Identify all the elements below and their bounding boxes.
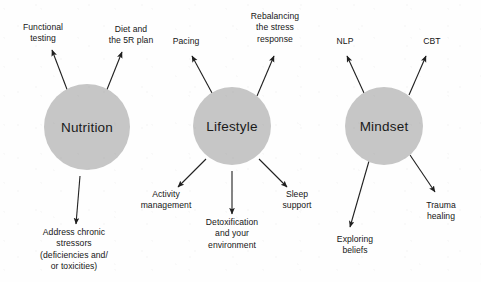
branch-label-line: (deficiencies and/ [40,250,108,261]
diagram-canvas: NutritionFunctionaltestingDiet andthe 5R… [0,0,481,282]
branch-label-line: beliefs [337,245,373,256]
node-circle-lifestyle[interactable] [193,87,271,165]
branch-label-trauma-healing: Traumahealing [426,200,456,223]
node-circle-mindset[interactable] [345,87,423,165]
branch-label-cbt: CBT [423,36,440,47]
branch-label-line: Rebalancing [251,11,299,22]
branch-label-line: Exploring [337,234,373,245]
branch-label-line: Functional [23,22,63,33]
branch-label-line: Pacing [173,36,200,47]
branch-label-line: support [282,200,311,211]
branch-label-pacing: Pacing [173,36,200,47]
branch-label-address-chronic-stressors: Address chronicstressors(deficiencies an… [40,227,108,272]
branch-label-exploring-beliefs: Exploringbeliefs [337,234,373,257]
branch-label-detoxification-environment: Detoxificationand yourenvironment [206,217,258,251]
branch-label-line: response [251,34,299,45]
branch-label-line: or toxicities) [40,261,108,272]
branch-label-diet-and-5r-plan: Diet andthe 5R plan [109,24,154,47]
branch-label-sleep-support: Sleepsupport [282,189,311,212]
branch-label-nlp: NLP [337,36,354,47]
circle-layer [44,84,423,170]
branch-label-line: management [141,200,192,211]
branch-label-functional-testing: Functionaltesting [23,22,63,45]
arrow-nlp [347,56,364,93]
branch-label-line: CBT [423,36,440,47]
arrow-sleep-support [259,159,287,187]
branch-label-line: healing [426,211,456,222]
arrow-diet-and-5r-plan [106,52,122,92]
branch-label-line: Activity [141,189,192,200]
branch-label-line: and your [206,228,258,239]
arrow-cbt [409,56,426,95]
arrow-functional-testing [52,50,68,92]
arrow-pacing [192,56,212,93]
arrow-activity-management [178,159,206,187]
node-circle-nutrition[interactable] [44,84,130,170]
branch-label-line: the stress [251,22,299,33]
branch-label-line: the 5R plan [109,35,154,46]
branch-label-activity-management: Activitymanagement [141,189,192,212]
branch-label-line: Diet and [109,24,154,35]
branch-label-line: testing [23,33,63,44]
arrow-exploring-beliefs [350,161,369,227]
arrow-address-chronic-stressors [76,176,80,224]
branch-label-line: stressors [40,239,108,250]
branch-label-rebalancing-stress-response: Rebalancingthe stressresponse [251,11,299,45]
branch-label-line: NLP [337,36,354,47]
branch-label-line: environment [206,240,258,251]
arrow-rebalancing-stress-response [257,56,274,96]
branch-label-line: Sleep [282,189,311,200]
branch-label-line: Trauma [426,200,456,211]
branch-label-line: Address chronic [40,227,108,238]
arrow-trauma-healing [410,155,435,192]
branch-label-line: Detoxification [206,217,258,228]
